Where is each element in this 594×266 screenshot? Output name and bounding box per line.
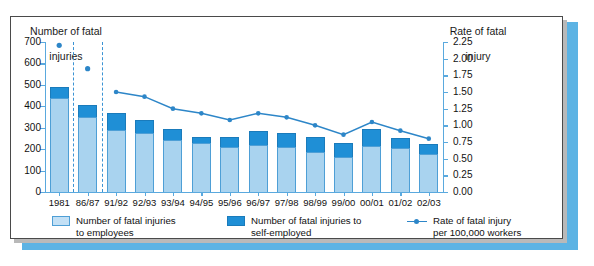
chart-legend: Number of fatal injuries to employees Nu… [52, 215, 552, 243]
bar-segment-self-employed [306, 137, 325, 152]
bar-segment-self-employed [249, 131, 268, 145]
x-axis-tick [315, 192, 316, 196]
light-blue-square-icon [52, 216, 70, 226]
dark-blue-square-icon [227, 216, 245, 226]
right-axis-tick [443, 42, 448, 43]
bar-segment-employees [362, 146, 381, 192]
bar-segment-employees [277, 147, 296, 192]
legend-item-employees-label: Number of fatal injuries to employees [76, 215, 176, 238]
bar-group [334, 42, 353, 192]
x-axis-tick-label: 02/03 [407, 197, 451, 208]
right-axis-tick [443, 109, 448, 110]
x-axis-tick [344, 192, 345, 196]
x-axis-tick [258, 192, 259, 196]
right-axis-tick-label: 1.75 [453, 70, 493, 80]
right-axis-tick [443, 59, 448, 60]
legend-label-line2: self-employed [251, 227, 311, 238]
legend-label-line1: Number of fatal injuries to [251, 215, 361, 226]
x-axis-tick [400, 192, 401, 196]
x-axis-line [45, 192, 444, 193]
x-axis-tick [59, 192, 60, 196]
bar-segment-self-employed [78, 105, 97, 118]
legend-item-rate-label: Rate of fatal injury per 100,000 workers [433, 215, 521, 238]
right-axis-line [443, 42, 444, 192]
bar-group [220, 42, 239, 192]
bar-segment-employees [220, 147, 239, 192]
right-axis-tick-label: 1.50 [453, 87, 493, 97]
legend-item-employees: Number of fatal injuries to employees [52, 215, 202, 238]
period-separator-dashed-line [102, 42, 103, 192]
right-axis-tick-label: 1.00 [453, 120, 493, 130]
left-axis-tick-label: 700 [1, 37, 41, 47]
period-separator-dashed-line [73, 42, 74, 192]
right-axis-tick-label: 0.00 [453, 187, 493, 197]
bar-group [50, 42, 69, 192]
right-axis-tick-label: 2.25 [453, 37, 493, 47]
bar-segment-self-employed [220, 137, 239, 148]
left-axis-tick-label: 500 [1, 80, 41, 90]
bar-segment-employees [135, 133, 154, 192]
left-axis-tick-label: 100 [1, 166, 41, 176]
legend-item-self-employed-label: Number of fatal injuries to self-employe… [251, 215, 361, 238]
right-axis-tick-label: 0.25 [453, 170, 493, 180]
right-axis-tick [443, 125, 448, 126]
bar-segment-employees [306, 152, 325, 192]
chart-figure: Number of fatal injuries Rate of fatal i… [0, 0, 594, 266]
bar-segment-self-employed [391, 138, 410, 148]
left-axis-tick-label: 600 [1, 58, 41, 68]
bar-group [192, 42, 211, 192]
legend-label-line2: to employees [76, 227, 134, 238]
bar-segment-self-employed [107, 113, 126, 130]
bar-segment-self-employed [334, 143, 353, 157]
legend-item-self-employed: Number of fatal injuries to self-employe… [227, 215, 392, 238]
bar-group [249, 42, 268, 192]
right-axis-tick-label: 0.75 [453, 137, 493, 147]
bar-segment-employees [249, 145, 268, 192]
right-axis-tick [443, 92, 448, 93]
left-axis-tick-label: 0 [1, 187, 41, 197]
bar-group [163, 42, 182, 192]
bar-group [277, 42, 296, 192]
bar-segment-employees [334, 157, 353, 192]
x-axis-tick [287, 192, 288, 196]
bar-group [419, 42, 438, 192]
x-axis-tick [372, 192, 373, 196]
bar-group [306, 42, 325, 192]
bar-segment-self-employed [163, 129, 182, 140]
bar-group [362, 42, 381, 192]
left-axis-title-line1: Number of fatal [30, 25, 102, 37]
bar-group [78, 42, 97, 192]
bar-group [135, 42, 154, 192]
x-axis-tick [88, 192, 89, 196]
left-axis-tick-label: 400 [1, 101, 41, 111]
rate-line-series [45, 42, 443, 192]
bar-segment-self-employed [135, 120, 154, 133]
x-axis-tick [201, 192, 202, 196]
bar-segment-employees [107, 130, 126, 192]
right-axis-tick [443, 75, 448, 76]
bar-segment-self-employed [277, 133, 296, 146]
bar-segment-self-employed [419, 144, 438, 154]
legend-label-line1: Number of fatal injuries [76, 215, 176, 226]
right-axis-tick [443, 175, 448, 176]
bar-segment-self-employed [362, 129, 381, 147]
bar-group [391, 42, 410, 192]
x-axis-tick [429, 192, 430, 196]
bar-segment-employees [192, 143, 211, 192]
right-axis-title-line1: Rate of fatal [450, 25, 507, 37]
line-with-marker-icon [407, 216, 427, 227]
bar-segment-self-employed [50, 87, 69, 99]
legend-label-line2: per 100,000 workers [433, 227, 521, 238]
bar-segment-employees [419, 154, 438, 192]
bar-segment-employees [78, 117, 97, 192]
left-axis-line [45, 42, 46, 192]
bar-segment-employees [50, 98, 69, 192]
left-axis-tick-label: 300 [1, 123, 41, 133]
plot-area: 01002003004005006007000.000.250.500.751.… [45, 42, 443, 192]
right-axis-tick [443, 159, 448, 160]
x-axis-tick [116, 192, 117, 196]
right-axis-tick [443, 142, 448, 143]
right-axis-tick-label: 1.25 [453, 104, 493, 114]
x-axis-tick [173, 192, 174, 196]
bar-group [107, 42, 126, 192]
